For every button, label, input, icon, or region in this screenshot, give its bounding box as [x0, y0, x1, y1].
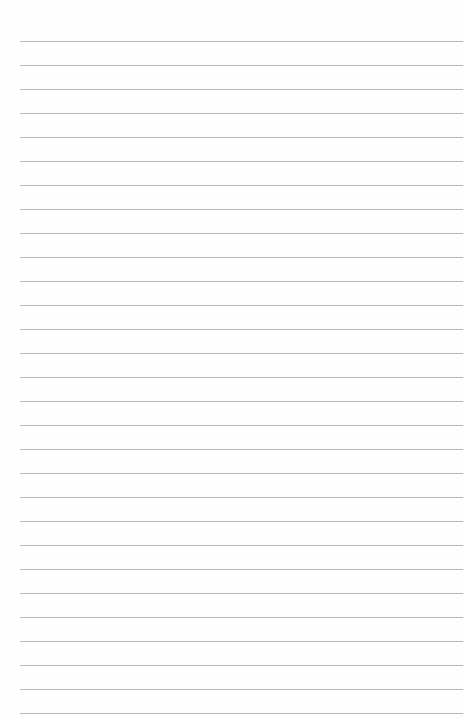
lined-paper-sheet: [0, 0, 465, 718]
ruled-line: [20, 137, 463, 138]
ruled-line: [20, 305, 463, 306]
ruled-line: [20, 449, 463, 450]
ruled-line: [20, 713, 463, 714]
ruled-line: [20, 233, 463, 234]
ruled-line: [20, 257, 463, 258]
ruled-line: [20, 329, 463, 330]
ruled-line: [20, 545, 463, 546]
ruled-line: [20, 209, 463, 210]
ruled-line: [20, 641, 463, 642]
ruled-line: [20, 161, 463, 162]
ruled-line: [20, 617, 463, 618]
ruled-line: [20, 65, 463, 66]
ruled-line: [20, 569, 463, 570]
ruled-line: [20, 89, 463, 90]
ruled-line: [20, 665, 463, 666]
ruled-line: [20, 353, 463, 354]
ruled-line: [20, 497, 463, 498]
ruled-line: [20, 185, 463, 186]
ruled-line: [20, 425, 463, 426]
ruled-line: [20, 113, 463, 114]
ruled-line: [20, 281, 463, 282]
ruled-line: [20, 593, 463, 594]
ruled-line: [20, 377, 463, 378]
ruled-line: [20, 41, 463, 42]
ruled-line: [20, 473, 463, 474]
ruled-line: [20, 689, 463, 690]
ruled-line: [20, 521, 463, 522]
ruled-line: [20, 401, 463, 402]
